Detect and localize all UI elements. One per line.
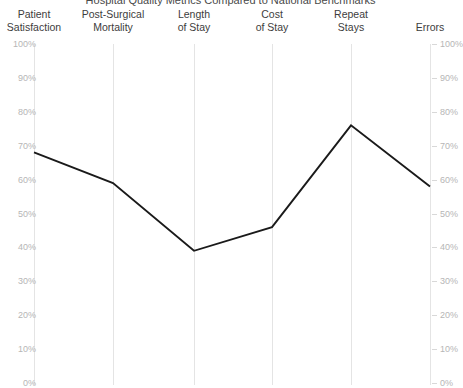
category-label-4: RepeatStays bbox=[334, 8, 368, 34]
category-label-3: Costof Stay bbox=[256, 8, 289, 34]
category-label-line2: of Stay bbox=[256, 21, 289, 34]
category-label-0: PatientSatisfaction bbox=[7, 8, 61, 34]
category-label-row: PatientSatisfactionPost-SurgicalMortalit… bbox=[0, 8, 461, 38]
category-label-line1: Post-Surgical bbox=[82, 8, 144, 20]
category-label-line1: Errors bbox=[416, 21, 445, 33]
series-hospital-score bbox=[34, 125, 430, 250]
category-label-line1: Cost bbox=[261, 8, 283, 20]
category-label-line1: Length bbox=[178, 8, 210, 20]
category-label-line2: Stays bbox=[334, 21, 368, 34]
category-label-line1: Repeat bbox=[334, 8, 368, 20]
category-label-5: Errors bbox=[416, 21, 445, 34]
category-label-line1: Patient bbox=[18, 8, 51, 20]
plot-area: 0%10%20%30%40%50%60%70%80%90%100% 0%10%2… bbox=[0, 38, 461, 385]
chart-title: Hospital Quality Metrics Compared to Nat… bbox=[0, 0, 461, 7]
category-label-2: Lengthof Stay bbox=[178, 8, 211, 34]
category-label-line2: Mortality bbox=[82, 21, 144, 34]
category-label-line2: Satisfaction bbox=[7, 21, 61, 34]
category-label-line2: of Stay bbox=[178, 21, 211, 34]
data-line-series bbox=[0, 38, 461, 385]
category-label-1: Post-SurgicalMortality bbox=[82, 8, 144, 34]
